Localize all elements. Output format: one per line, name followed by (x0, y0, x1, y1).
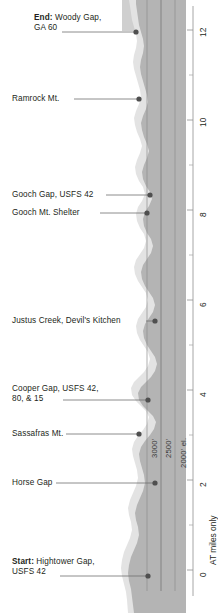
axis-tick-0: 0 (198, 563, 208, 577)
elevation-label-3000-text: 3000' (150, 439, 159, 458)
annotation-ramrock-mt: Ramrock Mt. (12, 94, 60, 104)
annotation-end-woody-gap-line2: GA 60 (34, 23, 57, 32)
axis-tick-2-text: 2 (198, 482, 208, 487)
elevation-label-2000-text: 2000' el. (179, 438, 188, 468)
axis-tick-10: 10 (198, 113, 208, 127)
axis-caption-text: AT miles only (208, 516, 218, 566)
annotation-sassafras-mt-text: Sassafras Mt. (12, 429, 63, 438)
elevation-label-3000: 3000' (150, 439, 159, 458)
axis-caption: AT miles only (208, 516, 218, 566)
axis-tick-4-text: 4 (198, 392, 208, 397)
annotation-cooper-gap-line1: Cooper Gap, USFS 42, (12, 384, 99, 393)
elevation-label-2000: 2000' el. (179, 438, 188, 468)
annotation-justus-creek: Justus Creek, Devil's Kitchen (12, 316, 121, 326)
axis-tick-10-text: 10 (198, 118, 208, 127)
profile-plot-area (0, 0, 218, 613)
marker-horse-gap (152, 480, 157, 485)
axis-major-ticks (187, 30, 193, 570)
annotation-ramrock-mt-text: Ramrock Mt. (12, 94, 60, 103)
axis-tick-2: 2 (198, 473, 208, 487)
axis-tick-4: 4 (198, 383, 208, 397)
annotation-gooch-mt-shelter-text: Gooch Mt. Shelter (12, 208, 80, 217)
marker-justus-creek (152, 318, 157, 323)
annotation-start-hightower-gap: Start: Hightower Gap, USFS 42 (12, 557, 95, 578)
annotation-gooch-mt-shelter: Gooch Mt. Shelter (12, 208, 80, 218)
annotation-cooper-gap-line2: 80, & 15 (12, 394, 43, 403)
annotation-start-hightower-lead: Start: (12, 557, 34, 566)
marker-start-hightower (145, 573, 150, 578)
annotation-end-woody-gap: End: Woody Gap, GA 60 (34, 13, 101, 34)
annotation-start-hightower-line2: USFS 42 (12, 567, 46, 576)
marker-ramrock-mt (136, 96, 141, 101)
profile-terrain-fill (128, 0, 186, 613)
elevation-label-2500-text: 2500' (164, 439, 173, 458)
annotation-cooper-gap: Cooper Gap, USFS 42, 80, & 15 (12, 384, 99, 405)
annotation-sassafras-mt: Sassafras Mt. (12, 429, 63, 439)
annotation-end-woody-gap-rest: Woody Gap, (53, 13, 102, 22)
elevation-label-2500: 2500' (164, 439, 173, 458)
annotation-gooch-gap-text: Gooch Gap, USFS 42 (12, 190, 93, 199)
annotation-horse-gap-text: Horse Gap (12, 478, 53, 487)
annotation-start-hightower-rest: Hightower Gap, (34, 557, 95, 566)
axis-tick-8-text: 8 (198, 212, 208, 217)
axis-tick-8: 8 (198, 203, 208, 217)
axis-tick-0-text: 0 (198, 572, 208, 577)
marker-cooper-gap (145, 397, 150, 402)
marker-gooch-gap (147, 192, 152, 197)
annotation-gooch-gap: Gooch Gap, USFS 42 (12, 190, 93, 200)
axis-tick-12-text: 12 (198, 28, 208, 37)
axis-tick-12: 12 (198, 23, 208, 37)
elevation-profile-chart: End: Woody Gap, GA 60 Ramrock Mt. Gooch … (0, 0, 218, 613)
annotation-end-woody-gap-lead: End: (34, 13, 53, 22)
annotation-horse-gap: Horse Gap (12, 478, 53, 488)
marker-gooch-mt-shelter (144, 210, 149, 215)
axis-tick-6: 6 (198, 293, 208, 307)
marker-sassafras-mt (136, 431, 141, 436)
marker-end-woody-gap (133, 29, 138, 34)
axis-tick-6-text: 6 (198, 302, 208, 307)
annotation-justus-creek-text: Justus Creek, Devil's Kitchen (12, 316, 121, 325)
